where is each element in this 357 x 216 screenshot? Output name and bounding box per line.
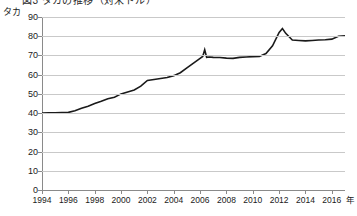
x-tick-label-2012: 2012 bbox=[270, 196, 289, 205]
y-tick-label-30: 30 bbox=[28, 128, 38, 137]
y-tick-label-70: 70 bbox=[28, 51, 38, 60]
plot-area bbox=[42, 17, 345, 190]
x-tick-1996 bbox=[68, 190, 69, 194]
y-tick-50 bbox=[38, 94, 42, 95]
y-tick-70 bbox=[38, 55, 42, 56]
x-tick-label-1998: 1998 bbox=[85, 196, 104, 205]
x-axis-labels: 1994199619982000200220042006200820102012… bbox=[0, 196, 357, 210]
gridline-80 bbox=[42, 36, 345, 37]
x-tick-2002 bbox=[147, 190, 148, 194]
series-line-0 bbox=[42, 29, 345, 114]
x-tick-2004 bbox=[174, 190, 175, 194]
y-axis-labels: 0102030405060708090 bbox=[0, 0, 38, 216]
chart-title-text: 図3 タカの推移（対米ドル） bbox=[22, 0, 156, 7]
x-tick-label-2000: 2000 bbox=[112, 196, 131, 205]
y-tick-60 bbox=[38, 75, 42, 76]
x-tick-2014 bbox=[305, 190, 306, 194]
x-tick-2008 bbox=[226, 190, 227, 194]
x-tick-label-2002: 2002 bbox=[138, 196, 157, 205]
x-tick-2006 bbox=[200, 190, 201, 194]
x-tick-label-2016: 2016 bbox=[322, 196, 341, 205]
gridline-40 bbox=[42, 113, 345, 114]
y-tick-90 bbox=[38, 17, 42, 18]
x-tick-label-2006: 2006 bbox=[191, 196, 210, 205]
gridline-10 bbox=[42, 171, 345, 172]
y-tick-label-40: 40 bbox=[28, 109, 38, 118]
x-tick-2012 bbox=[279, 190, 280, 194]
y-tick-label-80: 80 bbox=[28, 32, 38, 41]
x-tick-label-2008: 2008 bbox=[217, 196, 236, 205]
y-tick-label-20: 20 bbox=[28, 148, 38, 157]
y-tick-80 bbox=[38, 36, 42, 37]
y-tick-20 bbox=[38, 152, 42, 153]
y-tick-label-90: 90 bbox=[28, 13, 38, 22]
y-tick-label-60: 60 bbox=[28, 71, 38, 80]
chart-figure: 図3 タカの推移（対米ドル） タカ 0102030405060708090 19… bbox=[0, 0, 357, 216]
x-tick-2010 bbox=[253, 190, 254, 194]
gridline-90 bbox=[42, 17, 345, 18]
y-tick-10 bbox=[38, 171, 42, 172]
gridline-0 bbox=[42, 190, 345, 191]
chart-title-clipped: 図3 タカの推移（対米ドル） bbox=[0, 0, 357, 7]
y-tick-40 bbox=[38, 113, 42, 114]
x-tick-2016 bbox=[332, 190, 333, 194]
gridline-20 bbox=[42, 152, 345, 153]
x-tick-label-2004: 2004 bbox=[164, 196, 183, 205]
x-tick-2000 bbox=[121, 190, 122, 194]
x-tick-1994 bbox=[42, 190, 43, 194]
y-tick-30 bbox=[38, 132, 42, 133]
gridline-60 bbox=[42, 75, 345, 76]
gridline-70 bbox=[42, 55, 345, 56]
x-tick-label-1996: 1996 bbox=[59, 196, 78, 205]
y-tick-label-10: 10 bbox=[28, 167, 38, 176]
x-tick-label-1994: 1994 bbox=[33, 196, 52, 205]
gridline-30 bbox=[42, 132, 345, 133]
gridline-50 bbox=[42, 94, 345, 95]
x-tick-label-2014: 2014 bbox=[296, 196, 315, 205]
x-tick-1998 bbox=[95, 190, 96, 194]
x-tick-label-2010: 2010 bbox=[243, 196, 262, 205]
y-tick-label-50: 50 bbox=[28, 90, 38, 99]
data-series-line bbox=[42, 17, 345, 190]
x-axis-unit-label: 年 bbox=[346, 196, 355, 205]
